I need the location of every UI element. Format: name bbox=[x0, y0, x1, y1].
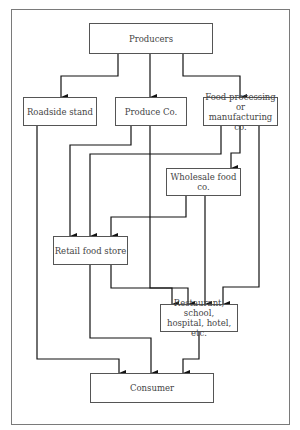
edge-produce-retail bbox=[70, 126, 131, 236]
node-producers: Producers bbox=[89, 23, 213, 54]
edge-wholesale-retail bbox=[111, 196, 186, 236]
node-label: Produce Co. bbox=[125, 107, 177, 117]
node-roadside-stand: Roadside stand bbox=[23, 97, 97, 126]
node-label: Wholesale food co. bbox=[167, 172, 240, 192]
node-retail-store: Retail food store bbox=[53, 236, 128, 265]
node-label: Consumer bbox=[130, 383, 174, 393]
node-wholesale: Wholesale food co. bbox=[166, 168, 241, 196]
node-label: Food processing or manufacturing co. bbox=[204, 92, 277, 132]
node-food-processing: Food processing or manufacturing co. bbox=[203, 97, 278, 126]
node-produce-co: Produce Co. bbox=[115, 97, 187, 126]
node-restaurant: Restaurant, school, hospital, hotel, etc… bbox=[160, 304, 238, 332]
node-label: Retail food store bbox=[55, 246, 127, 256]
node-label: Restaurant, school, hospital, hotel, etc… bbox=[161, 298, 237, 338]
edge-retail-consumer bbox=[90, 265, 151, 373]
edge-producers-roadside bbox=[61, 54, 118, 97]
node-label: Producers bbox=[129, 34, 173, 44]
node-consumer: Consumer bbox=[90, 373, 214, 403]
connector-lines bbox=[0, 0, 300, 430]
edge-foodproc-wholesale bbox=[231, 126, 240, 168]
edge-foodproc-restaurant bbox=[223, 126, 259, 304]
edge-restaurant-consumer bbox=[183, 332, 199, 373]
edge-produce-restaurant bbox=[150, 126, 188, 304]
node-label: Roadside stand bbox=[27, 107, 93, 117]
